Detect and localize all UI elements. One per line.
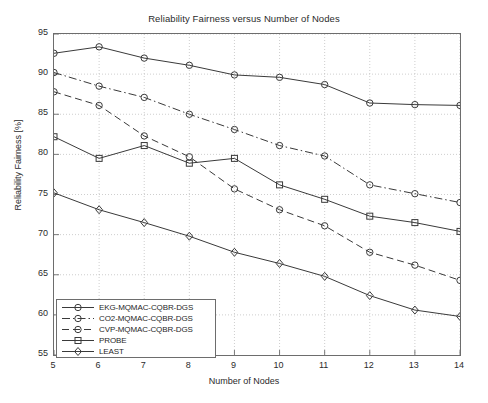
- x-axis-label: Number of Nodes: [0, 376, 488, 386]
- x-tick-label: 12: [354, 360, 384, 370]
- y-tick-label: 55: [14, 348, 48, 358]
- legend-label: EKG-MQMAC-CQBR-DGS: [99, 303, 193, 312]
- x-tick-label: 8: [173, 360, 203, 370]
- x-tick-label: 10: [264, 360, 294, 370]
- series-3: [54, 134, 460, 235]
- y-tick-label: 80: [14, 147, 48, 157]
- y-tick-label: 70: [14, 228, 48, 238]
- y-tick-label: 75: [14, 188, 48, 198]
- x-tick-label: 11: [309, 360, 339, 370]
- legend-item-4[interactable]: LEAST: [57, 346, 215, 357]
- y-tick-label: 65: [14, 268, 48, 278]
- x-tick-label: 9: [218, 360, 248, 370]
- legend-item-3[interactable]: PROBE: [57, 335, 215, 346]
- legend-swatch: [61, 346, 95, 357]
- x-tick-label: 14: [444, 360, 474, 370]
- x-tick-label: 7: [128, 360, 158, 370]
- y-tick-label: 90: [14, 67, 48, 77]
- legend-swatch: [61, 335, 95, 346]
- series-0: [54, 44, 460, 109]
- legend-label: LEAST: [99, 347, 124, 356]
- series-1: [54, 69, 460, 205]
- legend-swatch: [61, 324, 95, 335]
- legend-swatch: [61, 302, 95, 313]
- chart-figure: Reliability Fairness versus Number of No…: [0, 0, 488, 403]
- y-tick-label: 95: [14, 27, 48, 37]
- legend-item-1[interactable]: CO2-MQMAC-CQBR-DGS: [57, 313, 215, 324]
- y-tick-label: 85: [14, 107, 48, 117]
- legend-label: CO2-MQMAC-CQBR-DGS: [99, 314, 193, 323]
- chart-legend: EKG-MQMAC-CQBR-DGSCO2-MQMAC-CQBR-DGSCVP-…: [56, 299, 216, 358]
- legend-label: CVP-MQMAC-CQBR-DGS: [99, 325, 193, 334]
- legend-item-2[interactable]: CVP-MQMAC-CQBR-DGS: [57, 324, 215, 335]
- legend-swatch: [61, 313, 95, 324]
- chart-title: Reliability Fairness versus Number of No…: [0, 13, 488, 24]
- x-tick-label: 6: [83, 360, 113, 370]
- series-2: [54, 89, 460, 284]
- x-tick-label: 5: [38, 360, 68, 370]
- y-tick-label: 60: [14, 308, 48, 318]
- legend-label: PROBE: [99, 336, 127, 345]
- legend-item-0[interactable]: EKG-MQMAC-CQBR-DGS: [57, 302, 215, 313]
- x-tick-label: 13: [399, 360, 429, 370]
